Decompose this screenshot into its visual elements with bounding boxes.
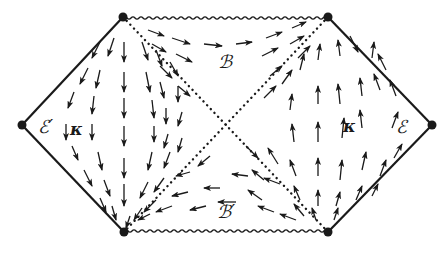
flow-arrow bbox=[178, 138, 182, 152]
flow-arrow bbox=[104, 180, 110, 196]
flow-arrow bbox=[338, 84, 340, 104]
penrose-diagram: ℰ′ κ ℬ κ ℰ ℬ′ bbox=[0, 0, 440, 253]
flow-arrow bbox=[362, 152, 366, 170]
vertex-dot-top-right bbox=[324, 13, 333, 22]
flow-arrow bbox=[232, 174, 248, 176]
flow-arrow bbox=[72, 146, 78, 160]
flow-arrow bbox=[334, 208, 338, 220]
flow-arrow bbox=[264, 86, 276, 98]
flow-arrow bbox=[374, 74, 380, 90]
flow-arrow bbox=[336, 192, 340, 206]
flow-arrow bbox=[170, 62, 178, 76]
flow-arrow bbox=[262, 48, 278, 56]
flow-arrow bbox=[318, 44, 320, 60]
labels: ℰ′ κ ℬ κ ℰ ℬ′ bbox=[38, 51, 409, 222]
flow-arrow bbox=[268, 148, 278, 164]
flow-arrow bbox=[236, 42, 252, 44]
vertex-dot-left bbox=[18, 121, 27, 130]
flow-arrow bbox=[360, 78, 362, 96]
flow-arrow bbox=[178, 86, 190, 96]
label-E-prime: ℰ′ bbox=[38, 116, 53, 137]
flow-arrow bbox=[156, 50, 162, 66]
flow-arrow bbox=[248, 190, 262, 200]
flow-arrow bbox=[108, 38, 114, 56]
flow-arrow bbox=[164, 134, 168, 148]
diagram-canvas: ℰ′ κ ℬ κ ℰ ℬ′ bbox=[0, 0, 440, 253]
flow-arrow bbox=[154, 178, 164, 192]
flow-arrow bbox=[252, 170, 264, 180]
flow-arrow bbox=[164, 152, 170, 168]
flow-arrow bbox=[290, 36, 304, 44]
flow-arrow bbox=[112, 206, 116, 220]
label-kappa-right: κ bbox=[342, 116, 356, 136]
flow-arrow bbox=[92, 96, 94, 114]
vertex-dot-bottom-left bbox=[120, 228, 129, 237]
flow-arrow bbox=[140, 182, 148, 198]
flow-arrow bbox=[98, 152, 102, 170]
flow-arrow bbox=[198, 156, 210, 166]
flow-arrow bbox=[360, 110, 362, 128]
flow-arrow bbox=[160, 82, 164, 98]
flow-arrow bbox=[340, 160, 342, 180]
flow-arrow bbox=[152, 44, 166, 52]
flow-arrow bbox=[84, 170, 92, 186]
label-B: ℬ bbox=[218, 51, 234, 72]
label-E: ℰ bbox=[396, 116, 409, 137]
vertex-dot-bottom-right bbox=[324, 228, 333, 237]
flow-arrow bbox=[246, 146, 258, 158]
flow-arrow bbox=[258, 206, 274, 212]
flow-arrow bbox=[266, 32, 282, 38]
flow-arrow bbox=[148, 30, 164, 36]
flow-arrow bbox=[176, 54, 192, 62]
flow-arrow bbox=[378, 54, 386, 70]
flow-arrow bbox=[190, 206, 206, 210]
flow-arrow bbox=[290, 160, 296, 176]
flow-arrow bbox=[68, 92, 74, 108]
flow-arrow bbox=[292, 124, 294, 142]
flow-arrow bbox=[144, 200, 156, 212]
flow-arrow bbox=[96, 70, 100, 88]
flow-arrow bbox=[148, 152, 152, 170]
flow-arrow bbox=[152, 100, 154, 118]
flow-arrow bbox=[338, 40, 340, 56]
flow-arrow bbox=[282, 70, 292, 84]
flow-arrow bbox=[312, 208, 316, 220]
flow-arrow bbox=[146, 72, 150, 92]
singularity-wavy-line bbox=[124, 230, 328, 232]
horizon-lines bbox=[123, 17, 328, 232]
flow-arrow bbox=[292, 22, 306, 28]
flow-arrow bbox=[172, 38, 190, 44]
flow-arrow bbox=[290, 94, 292, 110]
flow-arrow bbox=[142, 42, 148, 60]
flow-arrow bbox=[172, 192, 188, 196]
flow-arrow bbox=[204, 44, 222, 46]
singularity-wavy-line bbox=[123, 17, 328, 19]
label-B-prime: ℬ′ bbox=[217, 201, 235, 222]
label-kappa-left: κ bbox=[69, 119, 83, 139]
flow-arrow bbox=[126, 216, 130, 228]
flow-arrow bbox=[300, 54, 304, 70]
vertex-dot-right bbox=[428, 121, 437, 130]
flow-arrow bbox=[350, 36, 358, 52]
flow-arrow bbox=[178, 112, 182, 126]
flow-arrow bbox=[138, 214, 150, 220]
flow-arrow bbox=[270, 66, 282, 76]
vertex-dot-top-left bbox=[119, 13, 128, 22]
flow-arrow bbox=[80, 68, 88, 84]
flow-arrow bbox=[372, 42, 374, 58]
flow-arrow bbox=[280, 214, 296, 220]
flow-arrow bbox=[156, 206, 172, 212]
